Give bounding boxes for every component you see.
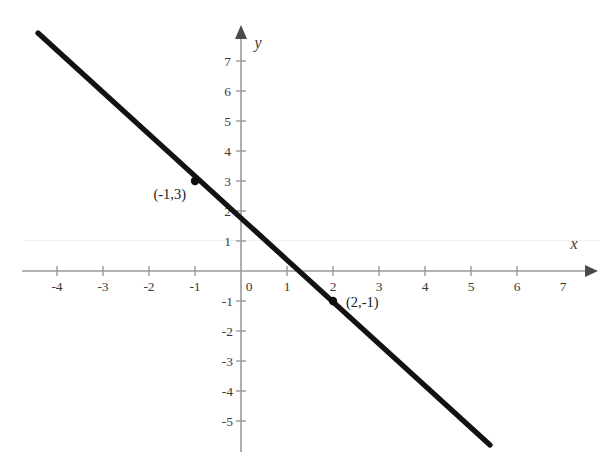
data-line-series (38, 33, 490, 445)
x-tick-label--4: -4 (51, 279, 62, 294)
x-tick-label-7: 7 (560, 279, 567, 294)
y-tick-label-3: 3 (224, 174, 231, 189)
x-tick-label-3: 3 (376, 279, 383, 294)
x-tick-label-5: 5 (468, 279, 475, 294)
x-tick-label-4: 4 (422, 279, 429, 294)
y-tick-label-5: 5 (224, 114, 231, 129)
y-tick-label--2: -2 (222, 324, 233, 339)
y-tick-label--1: -1 (222, 294, 233, 309)
y-tick-label--4: -4 (222, 384, 233, 399)
x-tick-label--2: -2 (143, 279, 154, 294)
graph-figure: -4 -3 -2 -1 0 1 2 3 4 5 6 7 1 2 3 4 5 6 … (0, 0, 612, 472)
x-axis-label: x (569, 235, 577, 252)
x-axis-arrowhead (585, 265, 598, 277)
x-tick-label-6: 6 (514, 279, 521, 294)
y-axis-arrowhead (235, 25, 247, 39)
x-tick-label--1: -1 (189, 279, 200, 294)
data-point-label-2: (2,-1) (346, 294, 379, 311)
y-tick-label-4: 4 (224, 144, 231, 159)
y-tick-label-7: 7 (224, 54, 231, 69)
data-point-marker-2 (329, 297, 337, 305)
data-point-label-1: (-1,3) (153, 186, 186, 203)
coordinate-plane: -4 -3 -2 -1 0 1 2 3 4 5 6 7 1 2 3 4 5 6 … (0, 0, 612, 472)
y-tick-label-1: 1 (224, 234, 231, 249)
x-tick-label-0: 0 (246, 279, 253, 294)
y-tick-label-6: 6 (224, 84, 231, 99)
y-tick-label--3: -3 (222, 354, 233, 369)
y-axis-label: y (252, 34, 262, 52)
y-tick-label--5: -5 (222, 414, 233, 429)
data-point-marker-1 (191, 177, 199, 185)
x-tick-label--3: -3 (97, 279, 108, 294)
x-tick-label-2: 2 (330, 279, 337, 294)
x-tick-label-1: 1 (284, 279, 291, 294)
